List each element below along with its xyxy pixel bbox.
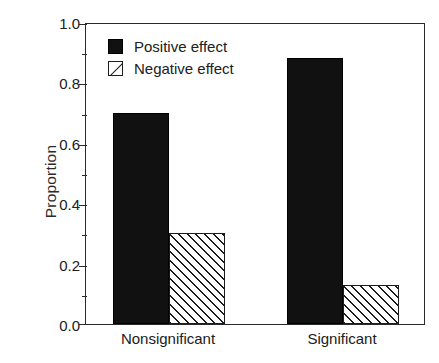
legend-label-negative-effect: Negative effect: [134, 61, 234, 76]
y-tick-minor-0.9: [82, 54, 87, 55]
bar-nonsignificant-negative: [169, 233, 225, 324]
legend-swatch-solid-square-icon: [108, 39, 123, 54]
plot-area: Positive effect Negative effect: [85, 23, 425, 325]
y-tick-major-0.0: [79, 324, 87, 325]
y-tick-minor-0.3: [82, 235, 87, 236]
legend-item-negative-effect: Negative effect: [108, 59, 234, 78]
legend-item-positive-effect: Positive effect: [108, 37, 234, 56]
y-tick-label-0.4: 0.4: [38, 196, 80, 213]
bar-chart-figure: Proportion 1.0 0.8 0.6 0.4 0.2 0.0: [0, 0, 439, 363]
y-tick-minor-0.5: [82, 175, 87, 176]
x-tick-label-nonsignificant: Nonsignificant: [121, 330, 215, 347]
y-tick-label-0.8: 0.8: [38, 75, 80, 92]
y-tick-label-0.6: 0.6: [38, 135, 80, 152]
legend: Positive effect Negative effect: [108, 37, 234, 78]
y-tick-major-0.6: [79, 145, 87, 146]
bar-significant-positive: [287, 58, 343, 324]
y-tick-major-0.4: [79, 205, 87, 206]
x-axis-tick-labels: Nonsignificant Significant: [85, 330, 425, 356]
y-tick-major-0.2: [79, 266, 87, 267]
y-tick-major-0.8: [79, 84, 87, 85]
y-tick-label-0.2: 0.2: [38, 256, 80, 273]
y-tick-minor-0.1: [82, 296, 87, 297]
legend-swatch-hatched-square-icon: [108, 61, 123, 76]
y-axis-tick-labels: 1.0 0.8 0.6 0.4 0.2 0.0: [38, 0, 80, 363]
y-tick-minor-0.7: [82, 115, 87, 116]
bar-significant-negative: [343, 285, 399, 324]
bar-nonsignificant-positive: [113, 113, 169, 324]
y-tick-label-1.0: 1.0: [38, 15, 80, 32]
x-tick-label-significant: Significant: [307, 330, 376, 347]
legend-label-positive-effect: Positive effect: [134, 39, 227, 54]
y-tick-major-1.0: [79, 24, 87, 25]
y-tick-label-0.0: 0.0: [38, 317, 80, 334]
